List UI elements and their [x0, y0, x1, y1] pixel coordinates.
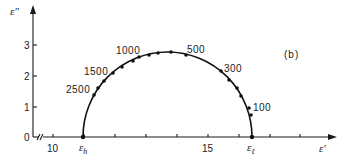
- x-tick-10: 10: [47, 143, 59, 154]
- freq-label-300: 300: [224, 63, 242, 74]
- eps-l-label: εℓ: [247, 141, 255, 156]
- frequency-labels: 2500 1500 1000 500 300 100: [66, 44, 271, 113]
- freq-label-1000: 1000: [116, 45, 140, 56]
- eps-h-label: εh: [79, 141, 87, 156]
- y-tick-0: 0: [24, 132, 30, 143]
- x-axis-label: ε′: [319, 142, 326, 154]
- y-axis-arrow-icon: [30, 5, 36, 14]
- y-axis: ε″ 3 2 1 0: [10, 5, 37, 143]
- y-axis-label: ε″: [10, 5, 19, 17]
- y-tick-1: 1: [24, 102, 30, 113]
- freq-label-500: 500: [187, 44, 205, 55]
- x-axis-arrow-icon: [328, 134, 337, 140]
- freq-label-1500: 1500: [84, 66, 108, 77]
- x-axis: 10 15 ε′ εh εℓ: [33, 134, 337, 156]
- freq-label-100: 100: [253, 102, 271, 113]
- panel-label: (b): [284, 49, 299, 60]
- x-tick-15: 15: [202, 143, 214, 154]
- freq-label-2500: 2500: [66, 84, 90, 95]
- y-tick-3: 3: [24, 40, 30, 51]
- y-tick-2: 2: [24, 71, 30, 82]
- axis-break-icon: [37, 134, 43, 140]
- cole-cole-plot: ε″ 3 2 1 0 10 15 ε′ εh εℓ: [0, 0, 352, 161]
